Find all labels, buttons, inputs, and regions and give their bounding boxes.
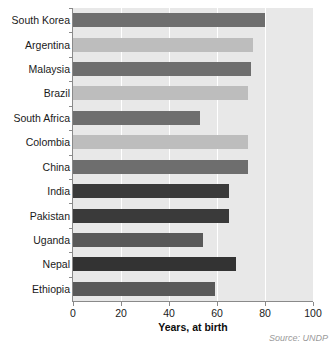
- y-axis-tick: [69, 130, 72, 131]
- bar: [73, 13, 265, 27]
- y-axis-tick: [69, 203, 72, 204]
- x-axis-tick-label-80: 80: [259, 308, 271, 319]
- bar-row: [73, 257, 313, 271]
- y-axis-spine: [72, 8, 73, 302]
- y-axis-tick: [69, 81, 72, 82]
- y-axis-tick: [69, 106, 72, 107]
- x-axis-tick-20: [121, 302, 122, 306]
- y-axis-label-uganda: Uganda: [2, 235, 70, 246]
- bar: [73, 62, 251, 76]
- y-axis-label-south-africa: South Africa: [2, 113, 70, 124]
- x-axis-spine: [72, 301, 313, 302]
- x-axis-tick-40: [169, 302, 170, 306]
- bar-row: [73, 111, 313, 125]
- bar: [73, 38, 253, 52]
- y-axis-label-malaysia: Malaysia: [2, 64, 70, 75]
- y-axis-tick: [69, 32, 72, 33]
- bar-row: [73, 38, 313, 52]
- bar-row: [73, 13, 313, 27]
- bar: [73, 160, 248, 174]
- y-axis-label-colombia: Colombia: [2, 137, 70, 148]
- bar: [73, 135, 248, 149]
- x-axis-title: Years, at birth: [73, 322, 313, 333]
- x-axis-tick-label-40: 40: [163, 308, 175, 319]
- source-note: Source: UNDP: [269, 334, 328, 343]
- x-axis-tick-80: [265, 302, 266, 306]
- gridline-100: [313, 8, 314, 301]
- bar-row: [73, 184, 313, 198]
- y-axis-tick: [69, 252, 72, 253]
- bar: [73, 257, 236, 271]
- y-axis-tick: [69, 155, 72, 156]
- bar: [73, 282, 215, 296]
- y-axis-label-nepal: Nepal: [2, 259, 70, 270]
- x-axis-tick-100: [313, 302, 314, 306]
- source-value: UNDP: [300, 333, 328, 343]
- y-axis-tick: [69, 8, 72, 9]
- y-axis-label-brazil: Brazil: [2, 88, 70, 99]
- bar-row: [73, 160, 313, 174]
- y-axis-label-china: China: [2, 162, 70, 173]
- bar-row: [73, 62, 313, 76]
- y-axis-label-pakistan: Pakistan: [2, 211, 70, 222]
- y-axis-tick: [69, 228, 72, 229]
- y-axis-label-argentina: Argentina: [2, 40, 70, 51]
- x-axis-tick-60: [217, 302, 218, 306]
- y-axis-label-south-korea: South Korea: [2, 15, 70, 26]
- bar-row: [73, 233, 313, 247]
- bar: [73, 209, 229, 223]
- bar-row: [73, 209, 313, 223]
- x-axis-tick-label-60: 60: [211, 308, 223, 319]
- chart-figure: South KoreaArgentinaMalaysiaBrazilSouth …: [0, 0, 333, 346]
- bar-row: [73, 135, 313, 149]
- x-axis-tick-label-0: 0: [70, 308, 76, 319]
- y-axis-label-ethiopia: Ethiopia: [2, 284, 70, 295]
- bar-row: [73, 282, 313, 296]
- bar: [73, 111, 200, 125]
- bar: [73, 184, 229, 198]
- bar-row: [73, 86, 313, 100]
- y-axis-label-india: India: [2, 186, 70, 197]
- y-axis-tick: [69, 179, 72, 180]
- x-axis-tick-0: [73, 302, 74, 306]
- x-axis-tick-label-20: 20: [115, 308, 127, 319]
- y-axis-tick: [69, 57, 72, 58]
- bar: [73, 86, 248, 100]
- source-label: Source:: [269, 333, 300, 343]
- plot-area: [73, 8, 313, 301]
- bar: [73, 233, 203, 247]
- y-axis-category-labels: South KoreaArgentinaMalaysiaBrazilSouth …: [0, 8, 70, 301]
- y-axis-tick: [69, 277, 72, 278]
- x-axis-tick-label-100: 100: [304, 308, 322, 319]
